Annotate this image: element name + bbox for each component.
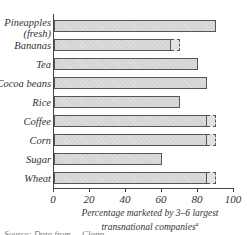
bar-wheat xyxy=(54,172,207,184)
category-label: Corn xyxy=(29,135,51,146)
x-tick xyxy=(197,188,198,192)
x-tick-label: 100 xyxy=(218,193,247,205)
bar-bananas xyxy=(54,39,171,51)
bar-sugar xyxy=(54,153,162,165)
bar-range-extension xyxy=(171,39,180,51)
bar-pineapples-fresh xyxy=(54,20,216,32)
x-tick-label: 80 xyxy=(182,193,212,205)
x-tick xyxy=(161,188,162,192)
category-label: Bananas xyxy=(14,40,51,51)
x-tick-label: 0 xyxy=(38,193,68,205)
x-tick-label: 20 xyxy=(74,193,104,205)
bar-coffee xyxy=(54,115,207,127)
category-label: Coffee xyxy=(24,116,51,127)
x-axis-label-line-1: Percentage marketed by 3–6 largest xyxy=(60,208,240,219)
bar-range-extension xyxy=(207,172,216,184)
category-label: Rice xyxy=(32,97,51,108)
bar-rice xyxy=(54,96,180,108)
x-tick-label: 60 xyxy=(146,193,176,205)
category-label: Tea xyxy=(36,59,51,70)
footnote-marker: a xyxy=(196,221,199,227)
bar-range-extension xyxy=(207,134,216,146)
category-label: Cocoa beans xyxy=(0,78,51,89)
x-tick xyxy=(233,188,234,192)
category-label: Wheat xyxy=(24,173,51,184)
bar-cocoa-beans xyxy=(54,77,207,89)
x-axis-line xyxy=(53,188,234,189)
x-tick-label: 40 xyxy=(110,193,140,205)
category-label: Pineapples(fresh) xyxy=(4,17,51,39)
bar-corn xyxy=(54,134,207,146)
x-tick xyxy=(53,188,54,192)
bar-range-extension xyxy=(207,115,216,127)
footnote-partial: Source: Data from ... Clapp ... xyxy=(4,229,113,235)
x-tick xyxy=(89,188,90,192)
x-tick xyxy=(125,188,126,192)
bar-tea xyxy=(54,58,198,70)
category-label: Sugar xyxy=(26,154,51,165)
horizontal-bar-chart: 020406080100 Percentage marketed by 3–6 … xyxy=(0,0,247,235)
